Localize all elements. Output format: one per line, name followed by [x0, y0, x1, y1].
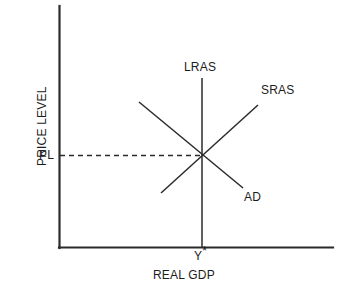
x-axis-label: REAL GDP: [153, 269, 215, 282]
sras-label: SRAS: [261, 84, 294, 97]
ad-as-diagram: PRICE LEVEL PL LRAS SRAS AD Y* REAL GDP: [0, 0, 352, 296]
ad-curve: [139, 102, 243, 188]
output-tick-label: Y*: [194, 250, 207, 263]
output-tick-letter: Y: [194, 249, 202, 263]
price-level-tick-label: PL: [39, 149, 54, 162]
ad-label: AD: [244, 191, 261, 204]
lras-label: LRAS: [184, 61, 216, 74]
sras-curve: [161, 105, 258, 193]
output-tick-star: *: [202, 244, 207, 258]
